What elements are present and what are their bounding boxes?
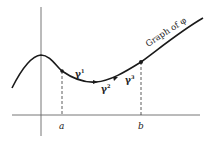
gamma3-label: γ3 — [125, 74, 135, 85]
arrow-icon — [93, 80, 98, 84]
point-a-label: a — [59, 121, 64, 131]
arrow-icon — [113, 77, 118, 81]
point-b-label: b — [138, 121, 144, 131]
point-b-marker — [139, 60, 143, 64]
gamma2-label: γ2 — [101, 83, 111, 94]
point-a-marker — [60, 69, 64, 73]
gamma1-label: γ1 — [75, 68, 84, 79]
graph-diagram: γ1 γ2 γ3 a b Graph of φ — [0, 0, 216, 143]
